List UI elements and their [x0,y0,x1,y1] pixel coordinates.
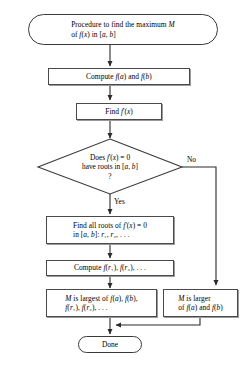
edge-label-yes: Yes [114,198,125,206]
node-done: Done [78,336,142,353]
node-find-derivative: Find f'(x) [76,103,162,120]
node-m-larger-label: M is largerof f(a) and f(b) [175,294,226,313]
node-find-roots: Find all roots of f'(x) = 0in [a, b]: r₁… [46,216,174,244]
node-compute-roots: Compute f(r₁), f(r₂), . . . [46,260,174,276]
node-compute-roots-label: Compute f(r₁), f(r₂), . . . [71,263,149,272]
node-decision-roots: Does f'(x) = 0have roots in [a, b]? [50,145,170,189]
node-compute-endpoints: Compute f(a) and f(b) [48,68,190,85]
node-m-largest-label: M is largest of f(a), f(b),f(r₁), f(r₂),… [62,294,141,313]
flowchart-diagram: Procedure to find the maximum Mof f(x) i… [0,0,249,374]
node-compute-endpoints-label: Compute f(a) and f(b) [83,72,155,81]
node-done-label: Done [99,340,121,349]
node-m-larger: M is largerof f(a) and f(b) [163,289,238,317]
node-find-derivative-label: Find f'(x) [102,107,136,116]
node-decision-roots-label: Does f'(x) = 0have roots in [a, b]? [82,153,138,181]
node-m-largest: M is largest of f(a), f(b),f(r₁), f(r₂),… [46,289,157,317]
edge-m-larger-to-done [116,317,200,325]
node-start: Procedure to find the maximum Mof f(x) i… [28,14,218,45]
node-start-label: Procedure to find the maximum Mof f(x) i… [68,20,178,39]
edge-label-no: No [187,156,196,164]
node-find-roots-label: Find all roots of f'(x) = 0in [a, b]: r₁… [70,221,150,240]
edge-decision-no-to-m-larger [182,167,216,285]
